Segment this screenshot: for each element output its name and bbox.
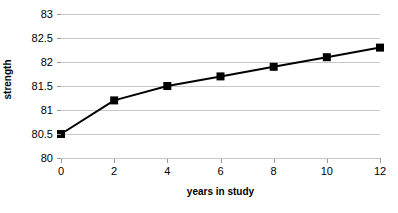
- y-axis-tick-label: 80: [41, 152, 53, 164]
- data-point-marker: [270, 63, 278, 71]
- x-axis-tick-mark: [274, 159, 275, 163]
- y-axis-tick-mark: [57, 110, 61, 111]
- x-axis-tick-label: 0: [58, 165, 64, 177]
- x-axis-tick-mark: [221, 159, 222, 163]
- data-series-strength: [61, 14, 380, 158]
- data-point-marker: [217, 72, 225, 80]
- y-axis-tick-mark: [57, 86, 61, 87]
- data-point-marker: [163, 82, 171, 90]
- y-axis-tick-label: 82.5: [32, 32, 53, 44]
- y-axis-tick-label: 80.5: [32, 128, 53, 140]
- y-axis-tick-label: 81.5: [32, 80, 53, 92]
- y-axis-title: strength: [0, 0, 14, 158]
- data-point-marker: [323, 53, 331, 61]
- y-axis-tick-mark: [57, 14, 61, 15]
- x-axis-tick-mark: [327, 159, 328, 163]
- line-chart: strength 8080.58181.58282.583 years in s…: [0, 0, 398, 213]
- y-axis-tick-mark: [57, 38, 61, 39]
- y-axis-tick-mark: [57, 62, 61, 63]
- y-axis-tick-labels: 8080.58181.58282.583: [14, 0, 58, 213]
- x-axis-tick-label: 2: [111, 165, 117, 177]
- x-axis-title: years in study: [61, 186, 380, 197]
- y-axis-tick-mark: [57, 134, 61, 135]
- x-axis-tick-mark: [61, 159, 62, 163]
- x-axis-tick-label: 6: [217, 165, 223, 177]
- x-axis-tick-label: 8: [271, 165, 277, 177]
- x-axis-tick-mark: [380, 159, 381, 163]
- y-axis-tick-label: 81: [41, 104, 53, 116]
- y-axis-title-label: strength: [2, 59, 13, 99]
- series-line: [61, 48, 380, 134]
- data-point-marker: [110, 96, 118, 104]
- y-axis-tick-label: 83: [41, 8, 53, 20]
- x-axis-tick-mark: [167, 159, 168, 163]
- x-axis-tick-label: 4: [164, 165, 170, 177]
- x-axis-tick-mark: [114, 159, 115, 163]
- x-axis-tick-label: 10: [321, 165, 333, 177]
- x-axis-tick-label: 12: [374, 165, 386, 177]
- data-point-marker: [376, 44, 384, 52]
- y-axis-tick-label: 82: [41, 56, 53, 68]
- x-axis-title-label: years in study: [187, 186, 254, 197]
